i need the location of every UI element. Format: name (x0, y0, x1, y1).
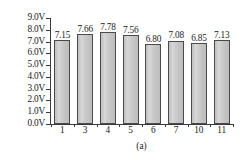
bar-value-label: 7.56 (123, 26, 138, 35)
bar: 7.08 (168, 41, 184, 124)
bar-value-label: 6.80 (146, 35, 161, 44)
y-axis-label: 4.0V (27, 72, 45, 81)
bar-series: 7.157.667.787.566.807.086.857.13 (51, 18, 233, 124)
y-axis-label: 8.0V (27, 25, 45, 34)
bar-slot: 7.13 (210, 18, 233, 124)
bar-chart-figure: 9.0V8.0V7.0V6.0V5.0V4.0V3.0V2.0V1.0V0.0V… (0, 0, 245, 160)
bar: 6.85 (191, 43, 207, 124)
bar: 7.78 (100, 32, 116, 124)
bar: 7.66 (77, 34, 93, 124)
y-axis-label: 0.0V (27, 119, 45, 128)
bar-value-label: 7.13 (214, 31, 229, 40)
bar-slot: 7.08 (165, 18, 188, 124)
bar-value-label: 7.78 (100, 23, 115, 32)
y-axis-label: 7.0V (27, 37, 45, 46)
x-axis-label: 7 (165, 126, 188, 135)
plot-area: 9.0V8.0V7.0V6.0V5.0V4.0V3.0V2.0V1.0V0.0V… (50, 18, 233, 124)
x-axis-labels: 1345671011 (51, 126, 233, 135)
bar: 7.15 (54, 40, 70, 124)
x-axis-label: 3 (74, 126, 97, 135)
x-axis-label: 4 (97, 126, 120, 135)
bar: 6.80 (145, 44, 161, 124)
bar-value-label: 7.08 (168, 31, 183, 40)
bar-slot: 7.66 (74, 18, 97, 124)
bar-slot: 7.56 (119, 18, 142, 124)
bar-slot: 6.85 (188, 18, 211, 124)
x-axis-label: 6 (142, 126, 165, 135)
y-axis-label: 1.0V (27, 108, 45, 117)
figure-caption: (a) (50, 142, 233, 151)
bar: 7.56 (123, 35, 139, 124)
bar-value-label: 6.85 (191, 34, 206, 43)
y-axis-label: 3.0V (27, 84, 45, 93)
x-axis-label: 5 (119, 126, 142, 135)
y-axis-label: 5.0V (27, 60, 45, 69)
y-axis-label: 9.0V (27, 13, 45, 22)
x-axis-label: 11 (210, 126, 233, 135)
bar-slot: 6.80 (142, 18, 165, 124)
bar: 7.13 (214, 40, 230, 124)
x-axis-label: 1 (51, 126, 74, 135)
bar-slot: 7.15 (51, 18, 74, 124)
bar-value-label: 7.15 (55, 31, 70, 40)
bar-value-label: 7.66 (77, 25, 92, 34)
y-axis-label: 6.0V (27, 49, 45, 58)
x-axis-label: 10 (188, 126, 211, 135)
y-axis-label: 2.0V (27, 96, 45, 105)
bar-slot: 7.78 (97, 18, 120, 124)
x-axis-tick (233, 124, 234, 127)
